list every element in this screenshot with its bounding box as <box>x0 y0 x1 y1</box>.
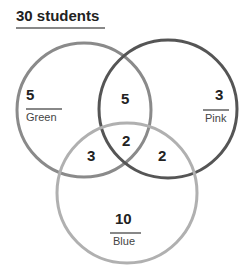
green-label-rule <box>26 108 62 110</box>
green-circle <box>17 43 151 177</box>
green-pink-count: 5 <box>121 90 129 107</box>
green-blue-count: 3 <box>87 147 95 164</box>
green-label: Green <box>26 111 57 123</box>
blue-label-rule <box>110 232 141 234</box>
green-only-count: 5 <box>26 86 34 103</box>
all-three-count: 2 <box>122 132 130 149</box>
blue-only-count: 10 <box>115 210 132 227</box>
pink-blue-count: 2 <box>158 147 166 164</box>
pink-only-count: 3 <box>215 86 223 103</box>
pink-label-rule <box>203 109 229 111</box>
pink-label: Pink <box>205 112 226 124</box>
blue-label: Blue <box>113 235 135 247</box>
